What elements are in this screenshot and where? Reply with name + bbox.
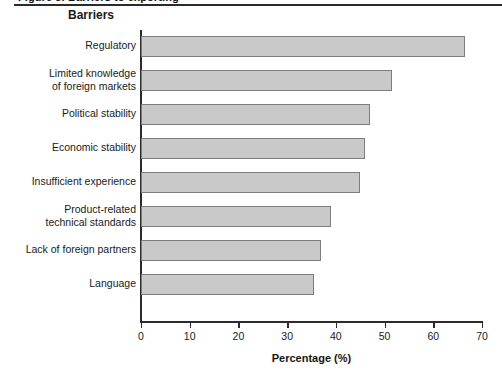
plot-area: [141, 30, 482, 322]
chart-title: Barriers: [68, 8, 114, 22]
category-label-7: Lack of foreign partners: [4, 243, 136, 256]
figure-caption-remnant: Figure 3. Barriers to exporting: [18, 0, 179, 3]
category-label-2: Limited knowledge of foreign markets: [4, 67, 136, 92]
x-tick-label-50: 50: [370, 330, 400, 342]
category-label-3: Political stability: [4, 107, 136, 120]
x-tick-label-60: 60: [418, 330, 448, 342]
x-tick-70: [482, 322, 483, 328]
bar-5: [141, 172, 360, 193]
x-tick-0: [141, 322, 142, 328]
category-axis-labels: RegulatoryLimited knowledge of foreign m…: [0, 30, 136, 322]
figure-top-rule: [14, 4, 502, 6]
x-tick-40: [336, 322, 337, 328]
bar-8: [141, 274, 314, 295]
bar-3: [141, 104, 370, 125]
category-label-6: Product-related technical standards: [4, 203, 136, 228]
bar-fill: [141, 70, 392, 91]
x-tick-20: [238, 322, 239, 328]
bar-7: [141, 240, 321, 261]
x-tick-label-40: 40: [321, 330, 351, 342]
x-tick-10: [190, 322, 191, 328]
x-tick-30: [287, 322, 288, 328]
figure-container: Figure 3. Barriers to exporting Barriers…: [0, 0, 502, 385]
bar-fill: [141, 36, 465, 57]
x-tick-label-20: 20: [223, 330, 253, 342]
bar-1: [141, 36, 465, 57]
bar-fill: [141, 240, 321, 261]
x-tick-50: [385, 322, 386, 328]
bar-fill: [141, 206, 331, 227]
category-label-4: Economic stability: [4, 141, 136, 154]
x-tick-label-70: 70: [467, 330, 497, 342]
x-tick-60: [433, 322, 434, 328]
category-label-5: Insufficient experience: [4, 175, 136, 188]
x-tick-label-30: 30: [272, 330, 302, 342]
bar-fill: [141, 138, 365, 159]
category-label-1: Regulatory: [4, 39, 136, 52]
bar-fill: [141, 274, 314, 295]
bar-2: [141, 70, 392, 91]
bar-fill: [141, 104, 370, 125]
bar-fill: [141, 172, 360, 193]
x-axis-title: Percentage (%): [141, 352, 482, 364]
bar-6: [141, 206, 331, 227]
x-tick-label-10: 10: [175, 330, 205, 342]
category-label-8: Language: [4, 277, 136, 290]
bar-4: [141, 138, 365, 159]
x-tick-label-0: 0: [126, 330, 156, 342]
